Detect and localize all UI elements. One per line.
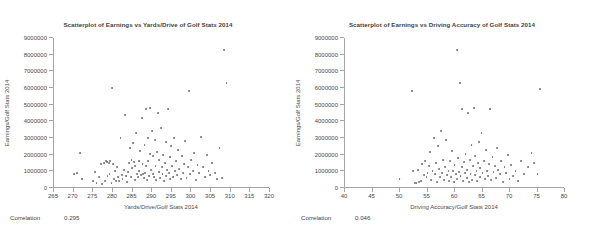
scatter-point	[533, 162, 535, 164]
scatter-point	[132, 142, 134, 144]
scatter-point	[73, 173, 75, 175]
scatter-point	[448, 170, 450, 172]
scatter-point	[455, 173, 457, 175]
scatter-point	[463, 161, 465, 163]
scatter-point	[199, 172, 201, 174]
scatter-point	[166, 175, 168, 177]
x-axis-tick-label: 50	[396, 193, 403, 199]
y-axis-tick	[49, 87, 53, 88]
x-axis-tick-label: 75	[533, 193, 540, 199]
y-axis-tick	[49, 170, 53, 171]
scatter-point	[186, 177, 188, 179]
y-axis-tick	[49, 104, 53, 105]
x-axis-tick-label: 265	[48, 193, 58, 199]
scatter-point	[165, 141, 167, 143]
y-axis-tick-label: 3000000	[24, 135, 47, 141]
scatter-point	[451, 150, 453, 152]
x-axis-tick	[399, 188, 400, 192]
scatter-point	[174, 170, 176, 172]
scatter-point	[509, 178, 511, 180]
correlation-value: 0.046	[355, 214, 370, 221]
scatter-point	[460, 175, 462, 177]
scatter-point	[153, 176, 155, 178]
scatter-point	[448, 180, 450, 182]
scatter-point	[162, 173, 164, 175]
scatter-point	[420, 180, 422, 182]
scatter-point	[520, 160, 522, 162]
scatter-point	[449, 160, 451, 162]
x-axis-line	[52, 187, 269, 188]
scatter-point	[466, 169, 468, 171]
scatter-point	[139, 150, 141, 152]
y-axis-tick-label: 3000000	[315, 135, 338, 141]
x-axis-tick	[171, 188, 172, 192]
y-axis-tick	[340, 37, 344, 38]
scatter-point	[195, 179, 197, 181]
scatter-point	[188, 90, 190, 92]
scatter-point	[517, 180, 519, 182]
x-axis-tick	[210, 188, 211, 192]
scatter-point	[157, 112, 159, 114]
scatter-point	[499, 173, 501, 175]
scatter-point	[428, 165, 430, 167]
y-axis-tick-label: 1000000	[315, 168, 338, 174]
scatter-point	[147, 137, 149, 139]
x-axis-tick	[112, 188, 113, 192]
x-axis-tick-label: 70	[506, 193, 513, 199]
y-axis-title: Earnings/Golf Stats 2014	[4, 80, 10, 147]
x-axis-tick	[344, 188, 345, 192]
scatter-point	[147, 160, 149, 162]
scatter-point	[138, 170, 140, 172]
x-axis-tick	[427, 188, 428, 192]
x-axis-tick-label: 270	[68, 193, 78, 199]
scatter-point	[474, 155, 476, 157]
x-axis-tick-label: 55	[423, 193, 430, 199]
scatter-point	[104, 180, 106, 182]
x-axis-tick	[454, 188, 455, 192]
y-axis-tick-label: 2000000	[24, 152, 47, 158]
x-axis-tick	[537, 188, 538, 192]
scatter-point	[426, 176, 428, 178]
scatter-point	[167, 108, 169, 110]
x-axis-tick	[564, 188, 565, 192]
y-axis-tick-label: 4000000	[24, 118, 47, 124]
scatter-point	[452, 170, 454, 172]
scatter-point	[189, 173, 191, 175]
scatter-point	[92, 180, 94, 182]
scatter-point	[171, 165, 173, 167]
scatter-point	[176, 174, 178, 176]
scatter-point	[116, 166, 118, 168]
scatter-point	[202, 166, 204, 168]
scatter-point	[469, 159, 471, 161]
scatter-point	[484, 178, 486, 180]
x-axis-title: Driving Accuracy/Golf Stats 2014	[344, 204, 564, 210]
scatter-point	[169, 178, 171, 180]
scatter-point	[464, 172, 466, 174]
scatter-point	[399, 178, 401, 180]
scatter-point	[416, 182, 418, 184]
scatter-point	[502, 181, 504, 183]
scatter-point	[129, 147, 131, 149]
correlation-value: 0.295	[64, 214, 79, 221]
scatter-point	[439, 176, 441, 178]
y-axis-tick	[340, 120, 344, 121]
scatter-point	[149, 153, 151, 155]
scatter-point	[164, 162, 166, 164]
scatter-point	[497, 169, 499, 171]
scatter-point	[137, 176, 139, 178]
y-axis-tick	[49, 70, 53, 71]
scatter-point	[479, 167, 481, 169]
scatter-point	[145, 165, 147, 167]
scatter-point	[197, 164, 199, 166]
scatter-point	[170, 145, 172, 147]
scatter-point	[500, 160, 502, 162]
scatter-point	[159, 177, 161, 179]
scatter-point	[486, 170, 488, 172]
scatter-point	[411, 90, 413, 92]
scatter-point	[477, 162, 479, 164]
scatter-point	[146, 179, 148, 181]
scatter-point	[432, 170, 434, 172]
x-axis-tick	[151, 188, 152, 192]
correlation-caption: Correlation 0.046	[301, 214, 370, 221]
scatter-point	[134, 179, 136, 181]
